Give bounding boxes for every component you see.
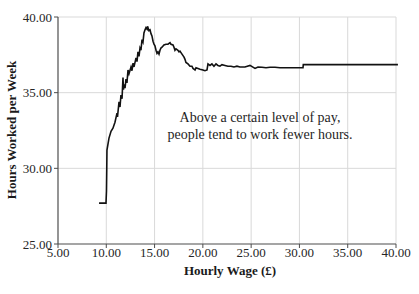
y-tick-label: 30.00 <box>23 161 52 176</box>
y-tick-label: 40.00 <box>23 10 52 25</box>
x-tick-label: 40.00 <box>381 245 410 260</box>
x-tick-label: 10.00 <box>92 245 121 260</box>
x-tick-label: 20.00 <box>188 245 217 260</box>
x-axis-title: Hourly Wage (£) <box>184 263 276 278</box>
x-tick-label: 35.00 <box>333 245 362 260</box>
y-tick-label: 35.00 <box>23 85 52 100</box>
annotation-line-2: people tend to work fewer hours. <box>167 127 352 142</box>
figure: 5.0010.0015.0020.0025.0030.0035.0040.002… <box>0 0 419 294</box>
x-tick-label: 15.00 <box>140 245 169 260</box>
line-chart: 5.0010.0015.0020.0025.0030.0035.0040.002… <box>0 0 419 294</box>
y-axis-title: Hours Worked per Week <box>4 60 19 199</box>
x-tick-label: 25.00 <box>237 245 266 260</box>
annotation-line-1: Above a certain level of pay, <box>180 110 341 125</box>
y-tick-label: 25.00 <box>23 237 52 252</box>
x-tick-label: 30.00 <box>285 245 314 260</box>
